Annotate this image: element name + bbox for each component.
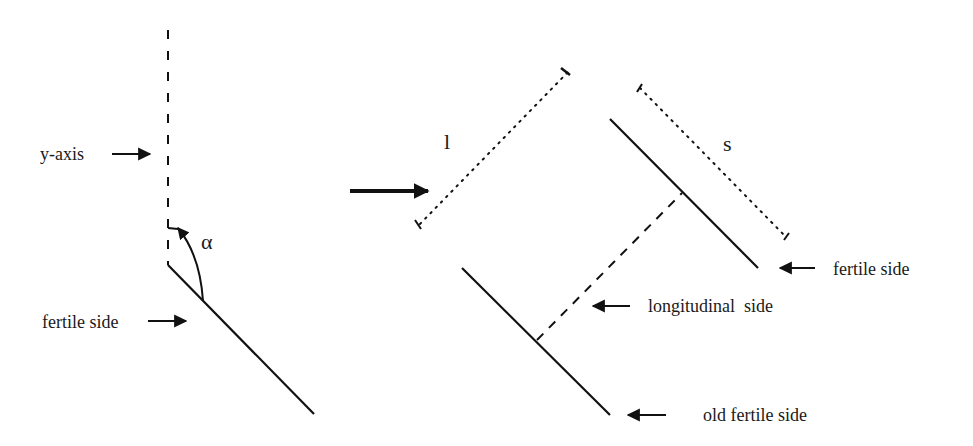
old-fertile-side-label: old fertile side (703, 405, 807, 425)
length-dimension-end-tick-top (561, 68, 570, 75)
y-axis-label: y-axis (40, 144, 84, 164)
fertile-side-label-left: fertile side (42, 312, 118, 332)
right-panel: l s fertile side longitudinal side old f… (415, 68, 909, 425)
fertile-side-label-right: fertile side (833, 259, 909, 279)
longitudinal-side-dashed-line (537, 193, 682, 340)
diagram-canvas: α y-axis fertile side l s fertile side l… (0, 0, 973, 446)
longitudinal-side-label: longitudinal side (648, 296, 773, 316)
fertile-side-line-new (610, 119, 758, 268)
angle-alpha-label: α (201, 229, 213, 254)
length-dimension-dotted-line (420, 72, 568, 224)
left-panel: α y-axis fertile side (40, 30, 314, 414)
spacing-dimension-tick-bottom (784, 233, 789, 240)
alpha-start-tick (168, 228, 178, 229)
old-fertile-side-line (462, 268, 610, 415)
length-label: l (444, 129, 450, 154)
angle-alpha-arc (178, 228, 203, 301)
fertile-side-line (168, 265, 314, 414)
spacing-label: s (723, 131, 732, 156)
